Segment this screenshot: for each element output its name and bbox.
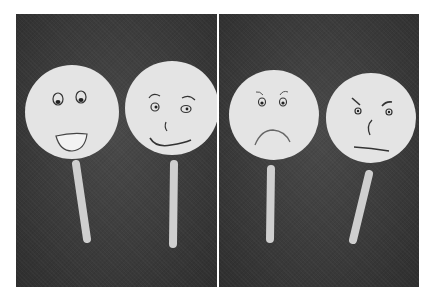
stick (76, 164, 87, 239)
stick (173, 164, 174, 244)
stick (353, 174, 369, 240)
right-puppets (219, 14, 419, 287)
face-plate (229, 70, 319, 160)
face-plate (326, 73, 416, 163)
angry-face-puppet (326, 73, 416, 240)
face-plate (125, 61, 217, 155)
sad-face-puppet (229, 70, 319, 239)
photo-panel-left (16, 14, 217, 287)
happy-face-puppet (25, 65, 119, 239)
smiling-face-puppet (125, 61, 217, 244)
photo-panel-right (219, 14, 419, 287)
stick (270, 169, 271, 239)
left-puppets (16, 14, 217, 287)
